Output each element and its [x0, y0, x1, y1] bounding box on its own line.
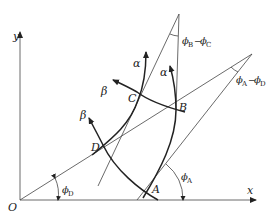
angle-arc-phi-D — [55, 178, 58, 200]
beta-curve-lower — [89, 118, 158, 200]
beta-label-lower: β — [79, 109, 86, 122]
alpha-curve-right — [143, 66, 176, 198]
svg-text:D: D — [68, 190, 74, 198]
svg-text:A: A — [241, 80, 248, 88]
point-D-label: D — [90, 141, 100, 154]
line-top-apex-right — [176, 14, 179, 110]
origin-label: O — [8, 201, 17, 214]
angle-label-phi-A: ϕ A — [181, 171, 193, 185]
alpha-label-left: α — [133, 57, 141, 70]
point-A-label: A — [151, 183, 160, 196]
svg-text:D: D — [260, 80, 266, 88]
angle-label-phi-A-minus-phi-D: ϕ A − ϕ D — [236, 74, 266, 88]
svg-text:A: A — [186, 177, 193, 185]
svg-text:B: B — [188, 41, 193, 49]
point-C-label: C — [128, 92, 137, 105]
svg-text:C: C — [206, 41, 211, 49]
beta-label-upper: β — [100, 85, 107, 98]
alpha-label-right: α — [160, 66, 168, 79]
angle-label-phi-B-minus-phi-C: ϕ B − ϕ C — [182, 35, 211, 49]
angle-arc-phi-B-C — [170, 34, 178, 36]
x-axis-label: x — [247, 184, 254, 197]
angle-arc-phi-A — [166, 164, 183, 200]
angle-label-phi-D: ϕ D — [62, 184, 74, 198]
slip-line-diagram: y x O A B C D α α β β ϕ D ϕ A ϕ B − ϕ C … — [0, 0, 275, 220]
point-B-label: B — [178, 101, 187, 114]
angle-arc-phi-A-D — [231, 67, 238, 72]
y-axis-label: y — [12, 30, 20, 43]
